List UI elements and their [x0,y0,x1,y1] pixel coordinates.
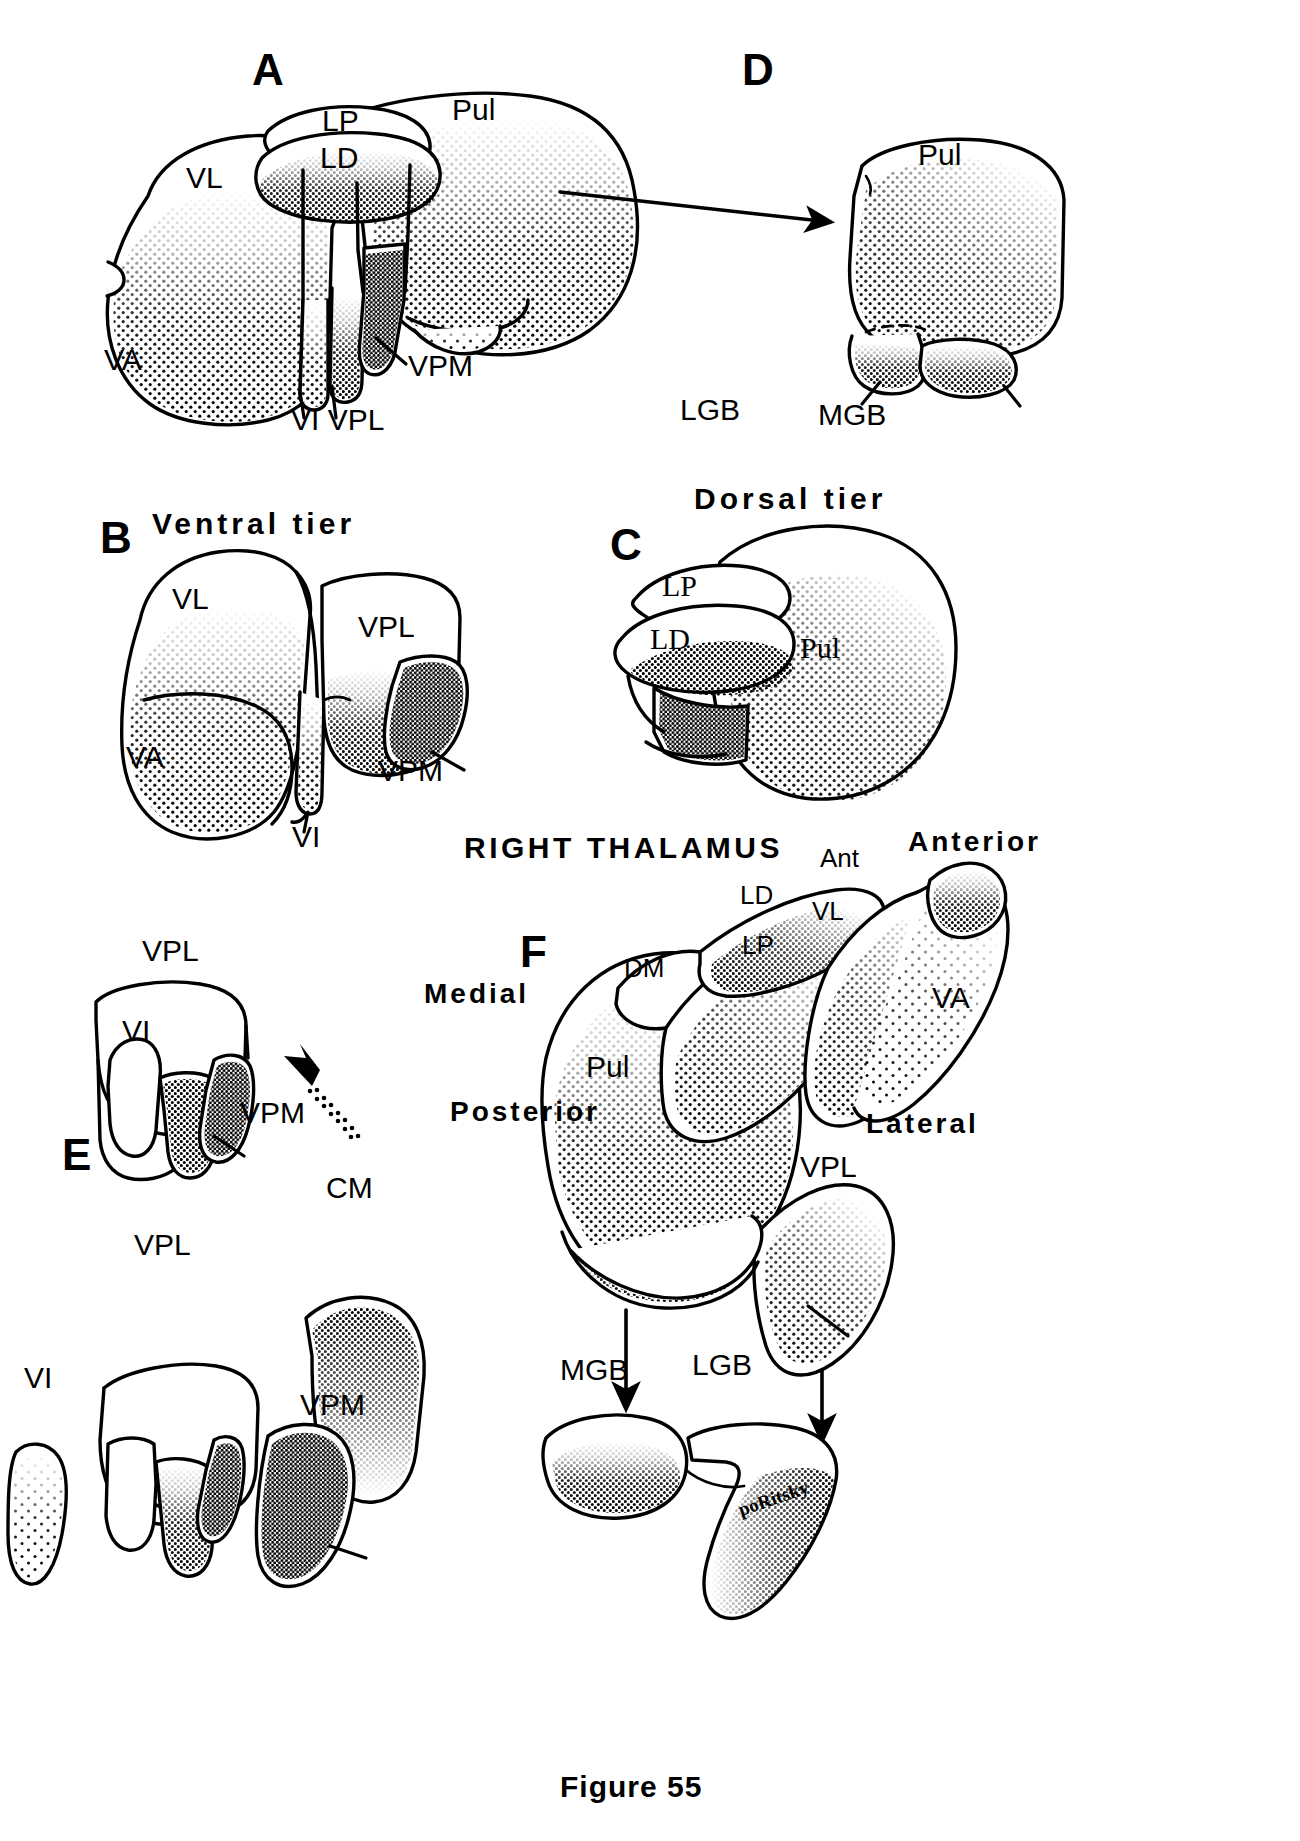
label-f-lp: LP [742,932,774,958]
panel-letter-c: C [610,523,642,567]
label-c-pul: Pul [800,633,840,663]
label-e-vi-top: VI [122,1016,150,1046]
label-c-ld: LD [650,624,690,654]
panel-letter-e: E [62,1133,91,1177]
panel-letter-f: F [520,930,547,974]
label-b-vpm: VPM [378,756,443,786]
panel-letter-d: D [742,48,774,92]
label-e-vpl-bottom: VPL [134,1230,191,1260]
panel-e-upper-drawing [96,982,360,1180]
panel-c-drawing [615,526,956,801]
label-e-vpm-top: VPM [240,1098,305,1128]
panel-letter-b: B [100,516,132,560]
label-f-vpl: VPL [800,1152,857,1182]
label-a-lp: LP [322,106,359,136]
panel-f-title: RIGHT THALAMUS [464,833,783,863]
label-e-cm: CM [326,1173,373,1203]
label-d-pul: Pul [918,140,961,170]
label-d-lgb: LGB [680,395,740,425]
figure-caption: Figure 55 [560,1772,702,1802]
label-a-va: VA [104,345,142,375]
label-e-vi-bottom: VI [24,1363,52,1393]
label-f-mgb: MGB [560,1355,628,1385]
label-b-vpl: VPL [358,612,415,642]
figure-plate: A LP Pul LD VL VA VPM VI VPL D Pul LGB M… [0,0,1300,1841]
label-a-ld: LD [320,143,358,173]
label-f-pul: Pul [586,1052,629,1082]
label-e-vpm-bottom: VPM [300,1390,365,1420]
label-b-va: VA [126,742,164,772]
label-f-lgb: LGB [692,1350,752,1380]
label-a-vi-vpl: VI VPL [291,405,384,435]
label-f-va: VA [932,983,970,1013]
panel-e-lower-drawing [8,1297,424,1586]
label-b-vi: VI [292,822,320,852]
orientation-posterior: Posterior [450,1098,600,1126]
orientation-anterior: Anterior [908,828,1041,856]
label-d-mgb: MGB [818,400,886,430]
anatomy-line-drawings [0,0,1300,1841]
orientation-lateral: Lateral [866,1110,979,1138]
label-a-vl: VL [186,163,223,193]
label-a-pul: Pul [452,95,495,125]
panel-d-drawing [849,139,1064,406]
label-f-ant: Ant [820,845,859,871]
label-f-ld: LD [740,882,773,908]
label-f-dm: DM [624,955,664,981]
label-e-vpl-top: VPL [142,936,199,966]
label-a-vpm: VPM [408,351,473,381]
label-b-vl: VL [172,584,209,614]
panel-c-title: Dorsal tier [694,484,886,514]
label-f-vl: VL [812,898,844,924]
panel-b-title: Ventral tier [152,509,355,539]
orientation-medial: Medial [424,980,529,1008]
panel-letter-a: A [252,48,284,92]
label-c-lp: LP [662,571,697,601]
